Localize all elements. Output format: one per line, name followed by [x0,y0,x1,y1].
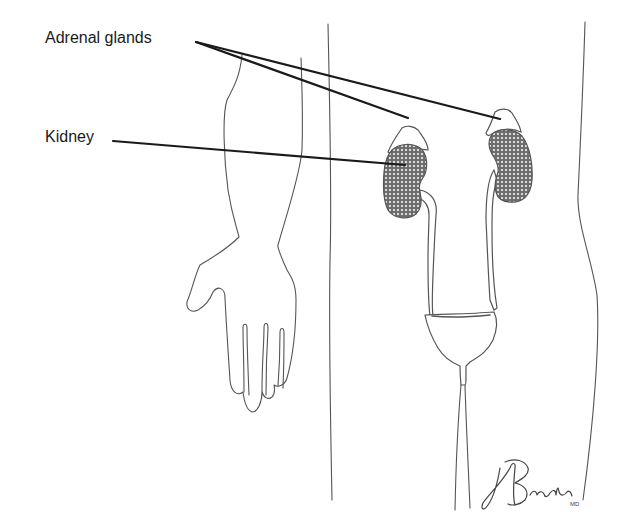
finger-line-3 [278,329,284,389]
finger-line-2 [262,324,268,396]
svg-text:MD: MD [570,501,580,507]
arm-outline [187,55,303,412]
label-kidney: Kidney [45,129,94,145]
torso-left-outline [328,24,332,500]
kidney-leader [113,141,405,165]
anatomy-drawing: MD [0,0,629,532]
adrenal-leader-right [196,42,500,119]
urethra [455,385,470,510]
bladder [425,312,497,385]
label-adrenal-glands: Adrenal glands [45,30,152,46]
torso-right-outline [578,22,598,500]
left-kidney [383,144,426,217]
left-ureter [418,190,436,316]
right-kidney [489,130,532,202]
artist-signature: MD [482,460,580,509]
finger-line-1 [243,324,249,395]
